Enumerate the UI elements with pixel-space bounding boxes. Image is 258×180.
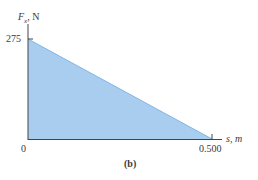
x-axis-label: s, m: [226, 133, 242, 144]
origin-label: 0: [21, 143, 26, 154]
figure-caption: (b): [124, 158, 136, 169]
y-axis-label: Fx, N: [18, 11, 39, 25]
x-tick-label-0500: 0.500: [199, 143, 222, 154]
y-axis-unit: , N: [27, 11, 39, 22]
y-tick-label-275: 275: [6, 33, 21, 44]
